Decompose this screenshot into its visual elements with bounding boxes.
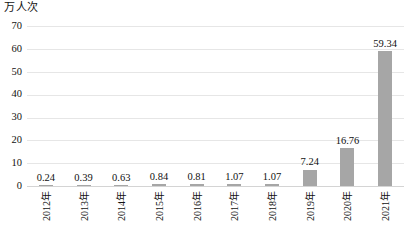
y-axis-tick-label: 10 (2, 158, 22, 169)
y-axis-tick-label: 30 (2, 112, 22, 123)
bar-chart: 万人次 706050403020100 0.242012年0.392013年0.… (0, 0, 408, 237)
x-axis-category-label: 2013年 (78, 191, 89, 221)
bar[interactable] (39, 185, 53, 186)
y-axis-tick-label: 20 (2, 135, 22, 146)
y-axis-tick-label: 70 (2, 21, 22, 32)
bar-value-label: 0.39 (74, 172, 92, 183)
y-axis-tick-label: 40 (2, 89, 22, 100)
y-axis-tick-label: 50 (2, 67, 22, 78)
bar-group: 7.242019年 (291, 0, 329, 237)
bar-group: 0.632014年 (102, 0, 140, 237)
bar-group: 0.242012年 (27, 0, 65, 237)
bar[interactable] (265, 184, 279, 186)
bar[interactable] (378, 51, 392, 186)
bar[interactable] (303, 170, 317, 187)
bar-group: 0.842015年 (140, 0, 178, 237)
bar[interactable] (340, 148, 354, 186)
bar-group: 1.072018年 (253, 0, 291, 237)
bar-value-label: 1.07 (263, 171, 281, 182)
bar[interactable] (114, 185, 128, 186)
bar-group: 0.392013年 (65, 0, 103, 237)
bar-group: 59.342021年 (366, 0, 404, 237)
bar-group: 0.812016年 (178, 0, 216, 237)
x-axis-category-label: 2020年 (342, 191, 353, 221)
bar[interactable] (152, 184, 166, 186)
x-axis-category-label: 2015年 (153, 191, 164, 221)
y-axis-tick-label: 0 (2, 181, 22, 192)
x-axis-category-label: 2017年 (229, 191, 240, 221)
x-axis-category-label: 2014年 (116, 191, 127, 221)
y-axis-tick-labels: 706050403020100 (0, 0, 27, 237)
x-axis-category-label: 2018年 (267, 191, 278, 221)
bar-group: 1.072017年 (216, 0, 254, 237)
bar-value-label: 0.81 (187, 171, 205, 182)
bar[interactable] (77, 185, 91, 186)
bar-value-label: 0.63 (112, 172, 130, 183)
bar-value-label: 0.84 (150, 171, 168, 182)
x-axis-category-label: 2021年 (380, 191, 391, 221)
bar-value-label: 0.24 (37, 172, 55, 183)
bar-group: 16.762020年 (329, 0, 367, 237)
bar-value-label: 16.76 (336, 135, 360, 146)
bars-layer: 0.242012年0.392013年0.632014年0.842015年0.81… (27, 0, 404, 237)
x-axis-category-label: 2012年 (40, 191, 51, 221)
bar[interactable] (227, 184, 241, 186)
x-axis-category-label: 2019年 (304, 191, 315, 221)
y-axis-tick-label: 60 (2, 44, 22, 55)
bar-value-label: 7.24 (301, 156, 319, 167)
x-axis-category-label: 2016年 (191, 191, 202, 221)
bar-value-label: 1.07 (225, 171, 243, 182)
bar[interactable] (190, 184, 204, 186)
bar-value-label: 59.34 (373, 38, 397, 49)
